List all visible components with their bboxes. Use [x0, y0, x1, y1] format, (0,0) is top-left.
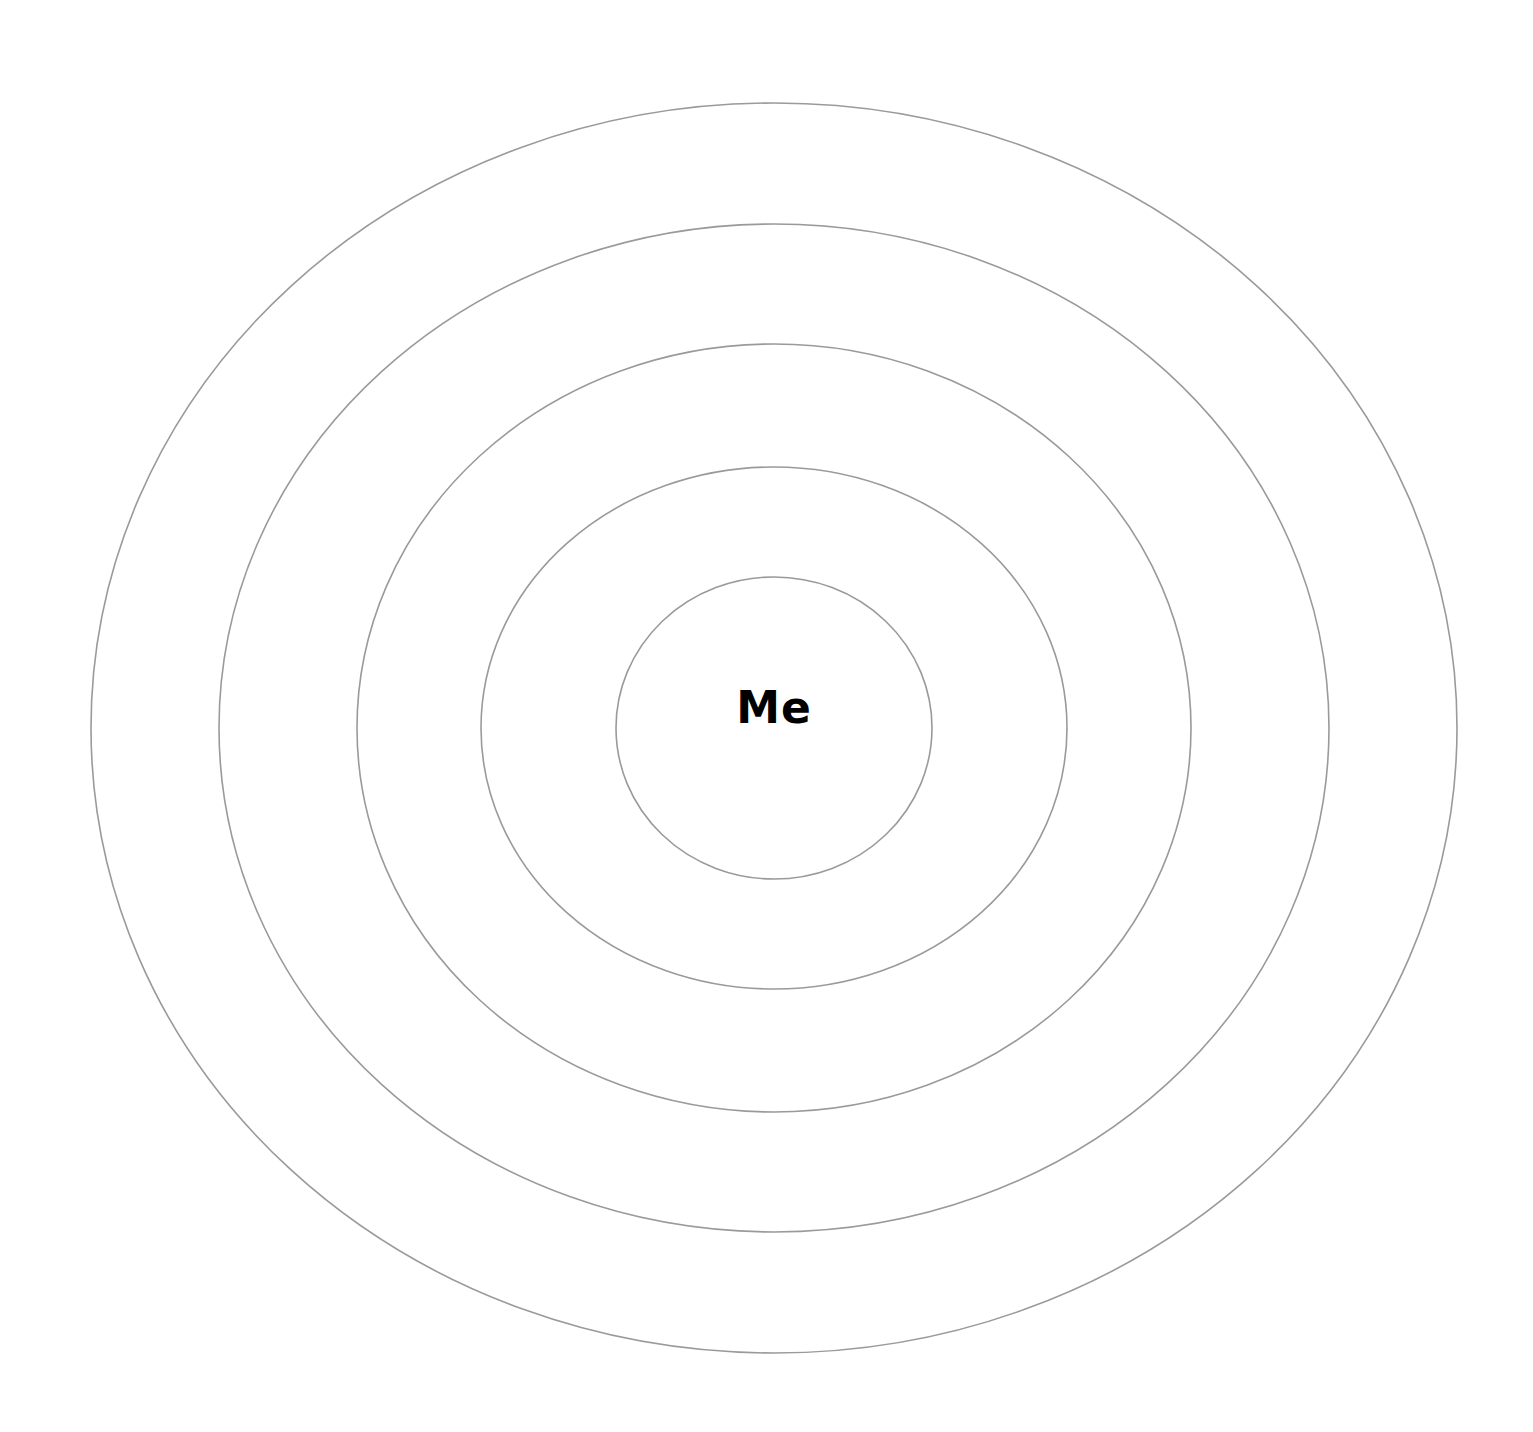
center-label: Me: [674, 680, 874, 736]
